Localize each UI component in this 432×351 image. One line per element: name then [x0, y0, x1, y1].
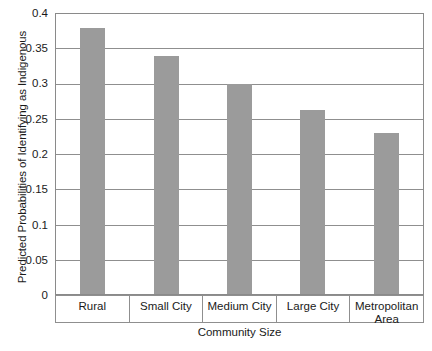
bar	[227, 84, 252, 294]
y-axis-title: Predicted Probabilities of Identifying a…	[16, 12, 28, 302]
x-category-small-city: Small City	[130, 296, 204, 322]
bar	[154, 56, 179, 294]
x-category-large-city: Large City	[277, 296, 351, 322]
x-category-medium-city: Medium City	[203, 296, 277, 322]
x-axis-category-row: Rural Small City Medium City Large City …	[55, 295, 424, 323]
x-category-metropolitan-area: Metropolitan Area	[350, 296, 423, 322]
bar-chart-figure: Predicted Probabilities of Identifying a…	[0, 0, 432, 351]
bar	[80, 28, 105, 294]
x-axis-title: Community Size	[55, 326, 424, 338]
bar	[300, 110, 325, 294]
plot-area	[55, 13, 424, 295]
x-category-rural: Rural	[56, 296, 130, 322]
bar	[374, 133, 399, 294]
gridline	[56, 48, 423, 49]
